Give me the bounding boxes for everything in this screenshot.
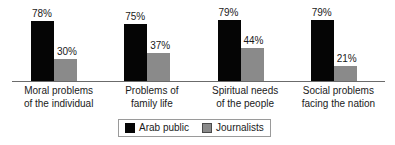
bar-group: 75%37% — [105, 4, 198, 82]
bar-value-label: 44% — [234, 35, 274, 46]
category-label-line: family life — [105, 98, 198, 111]
category-label-row: Moral problemsof the individualProblems … — [12, 85, 385, 111]
chart-legend: Arab public Journalists — [118, 119, 271, 137]
category-label-line: of the individual — [12, 98, 105, 111]
bar-value-label: 37% — [140, 40, 180, 51]
bar-group: 78%30% — [12, 4, 105, 82]
legend-entry-journalists: Journalists — [202, 122, 264, 133]
x-axis-line — [12, 81, 385, 82]
bar-value-label: 78% — [22, 8, 62, 19]
legend-entry-arab-public: Arab public — [125, 122, 189, 133]
category-label-line: of the people — [199, 98, 292, 111]
category-label-line: Problems of — [105, 85, 198, 98]
bar-chart: 78%30%75%37%79%44%79%21% Moral problemso… — [0, 0, 395, 145]
plot-area: 78%30%75%37%79%44%79%21% — [12, 4, 385, 82]
bar-value-label: 75% — [115, 11, 155, 22]
bar-arab-public — [218, 20, 241, 82]
category-label: Social problemsfacing the nation — [292, 85, 385, 110]
legend-label: Journalists — [216, 122, 264, 133]
bar-arab-public — [124, 24, 147, 83]
bar-value-label: 79% — [209, 7, 249, 18]
category-label: Spiritual needsof the people — [199, 85, 292, 110]
category-label-line: Social problems — [292, 85, 385, 98]
category-label-line: Moral problems — [12, 85, 105, 98]
gray-square-icon — [202, 123, 212, 133]
bar-value-label: 21% — [327, 53, 367, 64]
category-label-line: facing the nation — [292, 98, 385, 111]
bar-journalists — [54, 59, 77, 82]
bar-journalists — [147, 53, 170, 82]
bar-value-label: 30% — [47, 46, 87, 57]
bar-arab-public — [311, 20, 334, 82]
legend-label: Arab public — [139, 122, 189, 133]
category-label-line: Spiritual needs — [199, 85, 292, 98]
bar-value-label: 79% — [302, 7, 342, 18]
bar-journalists — [334, 66, 357, 82]
category-label: Moral problemsof the individual — [12, 85, 105, 110]
category-label: Problems offamily life — [105, 85, 198, 110]
bar-group: 79%44% — [199, 4, 292, 82]
bar-journalists — [241, 48, 264, 82]
black-square-icon — [125, 123, 135, 133]
bar-group: 79%21% — [292, 4, 385, 82]
